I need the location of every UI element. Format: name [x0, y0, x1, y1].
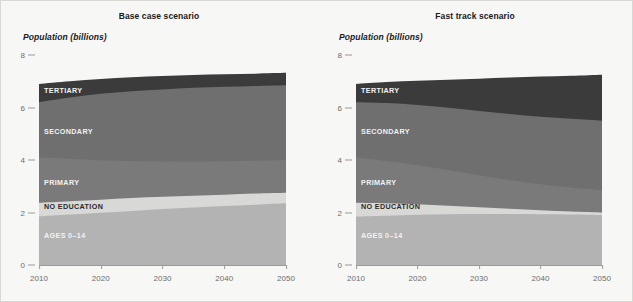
x-tick-2020-fast-track: 2020 [409, 265, 427, 283]
area-layers-fast-track [356, 75, 602, 265]
y-tick-8-base-case: 8 [21, 51, 35, 60]
area-ages [356, 214, 602, 265]
y-tick-2-fast-track: 2 [338, 208, 352, 217]
y-tick-6-base-case: 6 [21, 103, 35, 112]
x-tick-2010-base-case: 2010 [30, 265, 48, 283]
plot-area-fast-track: 8 6 4 2 0 2010 2020 2030 2040 2050 TERTI… [356, 55, 602, 265]
x-tick-2020-base-case: 2020 [92, 265, 110, 283]
x-tick-2040-fast-track: 2040 [532, 265, 550, 283]
x-tick-2030-base-case: 2030 [154, 265, 172, 283]
x-tick-2030-fast-track: 2030 [470, 265, 488, 283]
y-axis-title-base-case: Population (billions) [23, 32, 107, 42]
x-tick-2010-fast-track: 2010 [347, 265, 365, 283]
area-layers-base-case [39, 73, 286, 265]
panel-title-fast-track: Fast track scenario [317, 11, 633, 21]
x-tick-2040-base-case: 2040 [215, 265, 233, 283]
y-axis-title-fast-track: Population (billions) [339, 32, 423, 42]
plot-area-base-case: 8 6 4 2 0 2010 2020 2030 2040 2050 TERTI… [39, 55, 286, 265]
stacked-area-svg-base-case [39, 55, 286, 265]
y-tick-4-base-case: 4 [21, 156, 35, 165]
chart-panel-fast-track: Fast track scenario Population (billions… [317, 1, 633, 301]
y-tick-4-fast-track: 4 [338, 156, 352, 165]
y-tick-6-fast-track: 6 [338, 103, 352, 112]
figure-container: Base case scenario Population (billions)… [0, 0, 633, 302]
x-tick-2050-base-case: 2050 [277, 265, 295, 283]
panel-title-base-case: Base case scenario [1, 11, 317, 21]
y-tick-8-fast-track: 8 [338, 51, 352, 60]
y-tick-2-base-case: 2 [21, 208, 35, 217]
chart-panel-base-case: Base case scenario Population (billions)… [1, 1, 317, 301]
stacked-area-svg-fast-track [356, 55, 602, 265]
x-tick-2050-fast-track: 2050 [593, 265, 611, 283]
